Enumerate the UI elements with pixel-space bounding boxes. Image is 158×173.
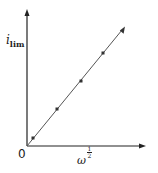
y-axis-label: ilim <box>6 33 24 49</box>
data-point <box>80 80 83 83</box>
fit-line-arrow-icon <box>120 27 125 34</box>
x-axis-arrow-icon <box>139 144 146 149</box>
data-point <box>32 137 35 140</box>
data-point <box>56 108 59 111</box>
origin-label: 0 <box>18 147 26 161</box>
y-axis-arrow-icon <box>25 9 30 16</box>
x-axis-label: ω 12 <box>77 154 86 167</box>
exponent-fraction: 12 <box>87 146 92 159</box>
fit-line <box>27 30 122 146</box>
data-point <box>102 52 105 55</box>
